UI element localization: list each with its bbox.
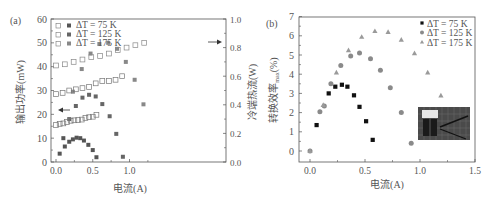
data-point [67, 140, 71, 144]
chart-b: 01234567 0.00.51.01.5 (b) 转换效率max(%) 电流(… [266, 11, 481, 191]
y-tick-label: 4 [289, 69, 294, 80]
data-point [87, 85, 92, 90]
data-point [399, 37, 404, 42]
y-tick-label: 60 [37, 14, 47, 25]
data-point [388, 85, 393, 90]
data-point [82, 139, 86, 143]
y-right-tick-label: 0.4 [230, 100, 242, 110]
data-point [359, 34, 364, 39]
data-point [420, 40, 424, 44]
data-point [333, 85, 337, 89]
y-axis-b: 01234567 [289, 11, 302, 156]
data-point [124, 60, 128, 64]
data-point [94, 94, 98, 98]
data-point [142, 40, 147, 45]
legend-entry: ΔT = 75 K [427, 19, 468, 29]
y-tick-label: 3 [289, 88, 294, 99]
data-point [75, 136, 79, 140]
data-point [113, 77, 118, 82]
data-point [357, 51, 362, 56]
data-point [86, 143, 90, 147]
data-point [315, 123, 319, 127]
data-point [108, 114, 112, 118]
left-arrow-icon [58, 108, 70, 113]
y-tick-label: 30 [37, 85, 47, 96]
y-tick-label: 6 [289, 30, 294, 41]
y-tick-label: 2 [289, 107, 294, 118]
x-tick-label: 0.5 [87, 166, 99, 176]
y-tick-label: 1 [289, 126, 294, 137]
data-point [61, 136, 65, 140]
data-point [63, 145, 67, 149]
data-point [364, 119, 368, 123]
data-point [121, 155, 125, 159]
data-point [54, 123, 59, 128]
data-points-a [54, 40, 147, 159]
x-tick-label: 0.0 [50, 166, 62, 176]
data-point [98, 54, 103, 59]
data-point [71, 137, 75, 141]
data-point [107, 79, 112, 84]
y-right-tick-label: 0.2 [230, 129, 241, 139]
data-point [58, 152, 62, 156]
y-axis-label-a: 输出功率(mW) [14, 60, 27, 124]
y-tick-label: 50 [37, 37, 47, 48]
data-point [372, 28, 377, 33]
data-point [71, 60, 76, 65]
legend-b: ΔT = 75 KΔT = 125 KΔT = 175 K [420, 19, 473, 48]
data-point [346, 48, 351, 53]
x-tick-label: 1.0 [414, 166, 426, 176]
y-tick-label: 0 [42, 157, 47, 168]
panel-label-a: (a) [10, 15, 21, 27]
x-tick-label: 0.0 [304, 166, 316, 176]
data-point [80, 57, 85, 62]
figure: 0102030405060 0.00.20.40.60.81.0 0.00.51… [0, 0, 492, 203]
x-tick-label: 0.5 [359, 166, 371, 176]
legend-entry: ΔT = 175 K [76, 38, 121, 48]
data-point [93, 81, 98, 86]
data-point [348, 53, 353, 58]
x-tick-label: 1.0 [124, 166, 136, 176]
y-axis-label-b: 转换效率max(%) [267, 57, 280, 122]
data-point [438, 93, 443, 98]
legend-a: ΔT = 75 KΔT = 125 KΔT = 175 K [56, 20, 121, 48]
data-point [340, 83, 344, 87]
data-point [425, 70, 430, 75]
y-right-tick-label: 0.0 [230, 158, 242, 168]
data-point [327, 91, 331, 95]
data-point [133, 43, 138, 48]
data-point [317, 109, 322, 114]
y-tick-label: 5 [289, 50, 294, 61]
data-point [54, 92, 59, 97]
data-point [60, 90, 65, 95]
data-point [80, 67, 84, 71]
y-tick-label: 10 [37, 133, 47, 144]
data-point [334, 70, 339, 75]
data-point [368, 56, 373, 61]
y-tick-label: 7 [289, 11, 294, 22]
data-point [94, 112, 99, 117]
data-point [133, 78, 137, 82]
data-point [371, 138, 375, 142]
data-point [94, 155, 98, 159]
data-point [80, 86, 85, 91]
data-point [141, 102, 145, 106]
x-tick-label: 1.5 [469, 166, 481, 176]
x-axis-label-a: 电流(A) [113, 182, 147, 195]
y-tick-label: 0 [289, 146, 294, 157]
y-axis-left-a: 0102030405060 [37, 14, 54, 168]
chart-a: 0102030405060 0.00.20.40.60.81.0 0.00.51… [10, 14, 259, 196]
data-point [345, 85, 349, 89]
data-point [74, 104, 78, 108]
legend-entry: ΔT = 175 K [427, 38, 472, 48]
right-arrow-icon [208, 40, 222, 45]
data-point [378, 68, 383, 73]
data-point [107, 51, 112, 56]
data-point [399, 110, 404, 115]
data-point [357, 105, 361, 109]
legend-entry: ΔT = 125 K [427, 28, 472, 38]
y-right-tick-label: 1.0 [230, 15, 242, 25]
data-point [91, 148, 95, 152]
device-photo-inset [418, 107, 470, 140]
data-point [328, 81, 333, 86]
